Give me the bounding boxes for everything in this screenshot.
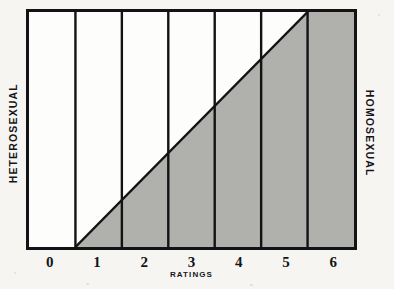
paper-speck [14,272,16,274]
plot-svg [29,12,354,247]
right-axis-label-homosexual: HOMOSEXUAL [365,73,376,193]
plot-area [29,12,354,247]
x-axis-title: RATINGS [26,270,357,280]
plot-frame [26,9,357,250]
paper-speck [86,283,89,285]
kinsey-scale-figure: HETEROSEXUAL HOMOSEXUAL [0,0,394,289]
left-axis-label-heterosexual: HETEROSEXUAL [8,73,19,193]
paper-speck [378,14,380,16]
paper-speck [250,284,253,286]
